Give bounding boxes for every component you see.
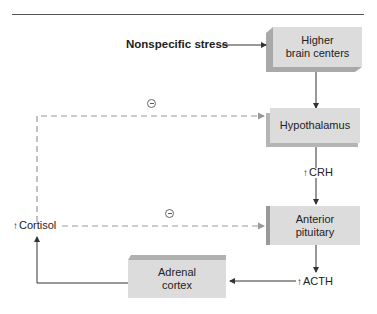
- inhibition-minus-icon: [147, 99, 156, 108]
- acth-text: ACTH: [303, 275, 333, 287]
- crh-text: CRH: [309, 166, 333, 178]
- increase-arrow-icon: ↑: [13, 220, 18, 231]
- node-anterior-pituitary: Anterior pituitary: [270, 206, 360, 245]
- cortisol-label: ↑Cortisol: [13, 219, 56, 231]
- node-label: Adrenal: [158, 266, 196, 279]
- stress-input-label: Nonspecific stress: [126, 38, 228, 50]
- node-label: brain centers: [286, 47, 350, 60]
- node-label: Higher: [301, 34, 333, 47]
- increase-arrow-icon: ↑: [297, 276, 302, 287]
- node-label: cortex: [162, 279, 192, 292]
- increase-arrow-icon: ↑: [303, 167, 308, 178]
- node-label: pituitary: [296, 226, 335, 239]
- node-adrenal-cortex: Adrenal cortex: [128, 260, 226, 298]
- node-higher-brain-centers: Higher brain centers: [273, 27, 362, 67]
- feedback-to-hypothalamus: [37, 116, 264, 222]
- node-label: Hypothalamus: [280, 119, 350, 132]
- crh-label: ↑CRH: [303, 166, 333, 178]
- cortisol-text: Cortisol: [19, 219, 56, 231]
- node-label: Anterior: [296, 213, 335, 226]
- inhibition-minus-icon: [165, 209, 174, 218]
- node-hypothalamus: Hypothalamus: [270, 108, 360, 143]
- acth-label: ↑ACTH: [297, 275, 333, 287]
